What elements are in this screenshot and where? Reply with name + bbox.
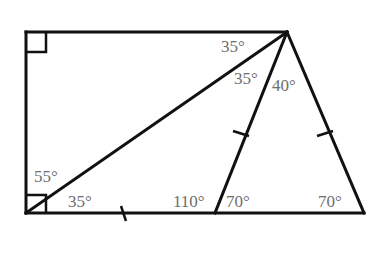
angle-label-base-mid-left: 110° bbox=[173, 192, 205, 211]
middle-side bbox=[215, 32, 287, 213]
angle-label-top-apex-left: 35° bbox=[221, 37, 245, 56]
angle-label-top-apex-middle: 35° bbox=[234, 69, 258, 88]
diagonal bbox=[26, 32, 287, 213]
angle-label-bottom-left-lower: 35° bbox=[68, 192, 92, 211]
right-angle-marker-top-left bbox=[26, 32, 46, 52]
geometry-diagram: 35° 35° 40° 55° 35° 110° 70° 70° bbox=[0, 0, 387, 269]
angle-label-bottom-left-upper: 55° bbox=[34, 167, 58, 186]
angle-label-top-apex-right: 40° bbox=[272, 76, 296, 95]
angle-label-bottom-right: 70° bbox=[318, 192, 342, 211]
angle-label-base-mid-right: 70° bbox=[226, 192, 250, 211]
right-side bbox=[287, 32, 364, 213]
